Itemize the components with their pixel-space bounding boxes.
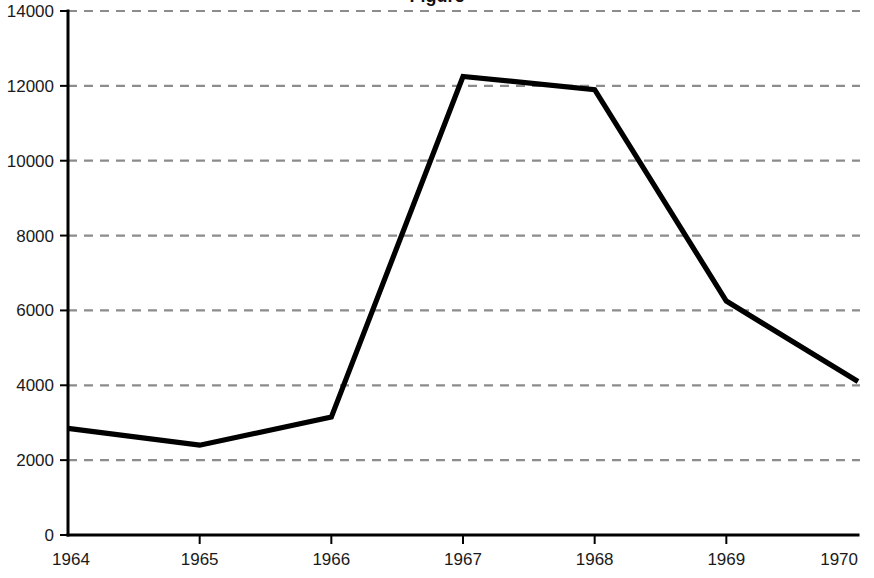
y-tick-label: 12000 — [7, 77, 54, 96]
y-axis-labels-group: 02000400060008000100001200014000 — [7, 2, 54, 545]
x-axis-labels-group: 1964196519661967196819691970 — [52, 550, 858, 569]
x-tick-label: 1970 — [820, 550, 858, 569]
x-tick-label: 1969 — [707, 550, 745, 569]
y-tick-label: 14000 — [7, 2, 54, 21]
x-tick-label: 1965 — [181, 550, 219, 569]
x-tick-label: 1968 — [576, 550, 614, 569]
chart-canvas: 02000400060008000100001200014000 1964196… — [0, 0, 874, 578]
y-tick-label: 8000 — [16, 227, 54, 246]
y-tick-label: 2000 — [16, 451, 54, 470]
x-tick-label: 1967 — [444, 550, 482, 569]
x-tick-label: 1964 — [52, 550, 90, 569]
y-tick-label: 0 — [45, 526, 54, 545]
y-tick-label: 4000 — [16, 376, 54, 395]
y-tick-label: 6000 — [16, 301, 54, 320]
y-tick-label: 10000 — [7, 152, 54, 171]
x-tick-label: 1966 — [312, 550, 350, 569]
line-chart: Figure 02000400060008000100001200014000 … — [0, 0, 874, 578]
data-series-line — [68, 77, 858, 446]
